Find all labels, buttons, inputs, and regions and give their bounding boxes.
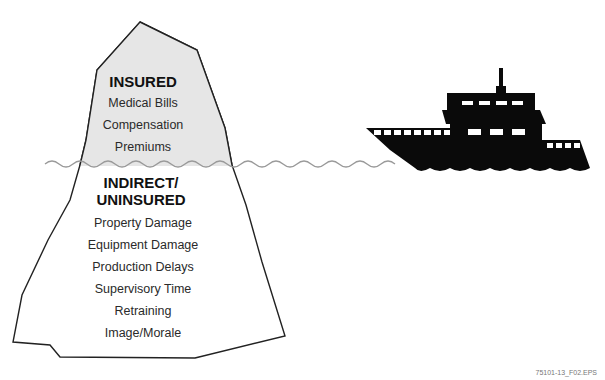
iceberg-diagram bbox=[0, 0, 605, 380]
insured-item: Compensation bbox=[103, 118, 184, 132]
insured-item: Medical Bills bbox=[108, 96, 177, 110]
uninsured-heading-line2: UNINSURED bbox=[96, 191, 185, 208]
uninsured-item: Equipment Damage bbox=[88, 238, 198, 252]
insured-item: Premiums bbox=[115, 140, 171, 154]
uninsured-heading-line1: INDIRECT/ bbox=[104, 174, 179, 191]
figure-id: 75101-13_F02.EPS bbox=[536, 369, 598, 376]
insured-heading: INSURED bbox=[109, 73, 177, 90]
uninsured-item: Image/Morale bbox=[105, 326, 181, 340]
uninsured-item: Retraining bbox=[115, 304, 172, 318]
ship-silhouette-icon bbox=[366, 68, 590, 171]
uninsured-item: Production Delays bbox=[92, 260, 193, 274]
uninsured-item: Property Damage bbox=[94, 216, 192, 230]
uninsured-item: Supervisory Time bbox=[95, 282, 192, 296]
